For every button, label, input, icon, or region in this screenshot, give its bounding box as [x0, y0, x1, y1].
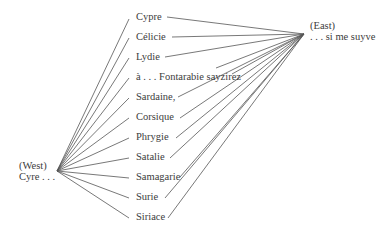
place-label: Cypre — [136, 11, 162, 23]
east-label: (East) . . . si me suyve — [310, 20, 375, 42]
west-direction: (West) — [19, 160, 55, 171]
place-label: Surie — [136, 191, 158, 203]
place-label: à . . . Fontarabie sayzirez — [136, 71, 241, 83]
west-text: Cyre . . . — [19, 171, 55, 182]
place-label: Corsique — [136, 111, 174, 123]
place-label: Lydie — [136, 51, 160, 63]
place-label: Célicie — [136, 31, 166, 43]
west-label: (West) Cyre . . . — [19, 160, 55, 182]
place-label: Sardaine, — [136, 91, 175, 103]
place-label: Samagarie — [136, 171, 180, 183]
east-text: . . . si me suyve — [310, 31, 375, 42]
place-label: Satalie — [136, 151, 165, 163]
east-direction: (East) — [310, 20, 375, 31]
place-label: Phrygie — [136, 131, 169, 143]
place-label: Siriace — [136, 211, 165, 223]
